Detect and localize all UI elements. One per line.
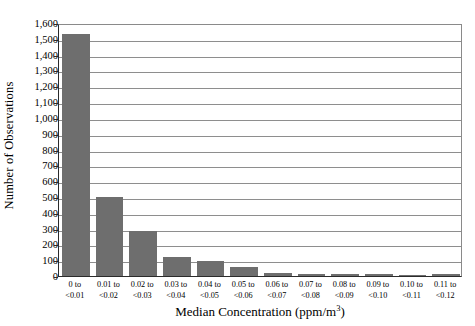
y-axis-tick-label: 1,200 <box>12 82 58 92</box>
x-axis-tick-label-line2: <0.09 <box>327 291 361 302</box>
y-axis-tick-label: 1,400 <box>12 51 58 61</box>
x-axis-tick-label-line1: 0.09 to <box>361 280 395 291</box>
x-axis-tick-label-line2: <0.04 <box>159 291 193 302</box>
y-axis-ticks: 01002003004005006007008009001,0001,1001,… <box>0 24 58 277</box>
x-axis-tick-label: 0.11 to<0.12 <box>428 280 462 301</box>
y-axis-tick-label: 600 <box>12 177 58 187</box>
y-axis-tick-label: 400 <box>12 209 58 219</box>
x-axis-tick-label-line2: <0.01 <box>58 291 92 302</box>
y-axis-tick-label: 1,000 <box>12 114 58 124</box>
x-axis-tick-label-line1: 0.11 to <box>428 280 462 291</box>
x-axis-tick-label-line1: 0.05 to <box>226 280 260 291</box>
bar-series <box>59 25 461 276</box>
y-axis-tick-label: 1,500 <box>12 35 58 45</box>
bar <box>264 273 292 276</box>
x-axis-tick-label-line2: <0.05 <box>193 291 227 302</box>
bar <box>96 197 124 276</box>
x-axis-tick-label-line1: 0.07 to <box>294 280 328 291</box>
x-axis-tick-label: 0.04 to<0.05 <box>193 280 227 301</box>
y-axis-tick-label: 1,300 <box>12 66 58 76</box>
bar <box>62 34 90 276</box>
bar <box>399 275 427 276</box>
x-axis-tick-label-line1: 0.04 to <box>193 280 227 291</box>
x-axis-tick-label-line1: 0 to <box>58 280 92 291</box>
bar <box>230 267 258 276</box>
x-axis-tick-label-line2: <0.02 <box>92 291 126 302</box>
x-axis-tick-label: 0.03 to<0.04 <box>159 280 193 301</box>
x-axis-tick-label-line1: 0.02 to <box>125 280 159 291</box>
x-axis-tick-label-line2: <0.12 <box>428 291 462 302</box>
x-axis-tick-label: 0.01 to<0.02 <box>92 280 126 301</box>
x-axis-tick-label-line1: 0.08 to <box>327 280 361 291</box>
bar <box>197 261 225 276</box>
x-axis-tick-label-line1: 0.01 to <box>92 280 126 291</box>
y-axis-tick-label: 0 <box>12 272 58 282</box>
y-axis-tick-label: 100 <box>12 256 58 266</box>
x-axis-tick-label: 0.07 to<0.08 <box>294 280 328 301</box>
y-axis-tick-label: 1,600 <box>12 19 58 29</box>
y-axis-tick-mark <box>54 277 58 278</box>
x-axis-tick-label-line1: 0.10 to <box>395 280 429 291</box>
bar <box>298 274 326 276</box>
bar <box>129 231 157 276</box>
x-axis-tick-label: 0.09 to<0.10 <box>361 280 395 301</box>
bar <box>365 274 393 276</box>
y-axis-tick-label: 500 <box>12 193 58 203</box>
x-axis-tick-label: 0.02 to<0.03 <box>125 280 159 301</box>
x-axis-tick-label-line2: <0.06 <box>226 291 260 302</box>
x-axis-tick-label-line2: <0.08 <box>294 291 328 302</box>
x-axis-tick-label: 0 to<0.01 <box>58 280 92 301</box>
x-axis-tick-label: 0.06 to<0.07 <box>260 280 294 301</box>
y-axis-tick-label: 300 <box>12 225 58 235</box>
y-axis-tick-label: 200 <box>12 240 58 250</box>
y-axis-tick-label: 1,100 <box>12 98 58 108</box>
y-axis-tick-label: 800 <box>12 146 58 156</box>
x-axis-title: Median Concentration (ppm/m3) <box>58 303 462 320</box>
y-axis-tick-label: 900 <box>12 130 58 140</box>
x-axis-tick-label-line2: <0.03 <box>125 291 159 302</box>
x-axis-tick-label: 0.05 to<0.06 <box>226 280 260 301</box>
plot-area <box>58 24 462 277</box>
x-axis-tick-label-line1: 0.03 to <box>159 280 193 291</box>
x-axis-tick-label-line2: <0.11 <box>395 291 429 302</box>
bar <box>163 257 191 276</box>
x-axis-tick-label-line2: <0.10 <box>361 291 395 302</box>
y-axis-tick-label: 700 <box>12 161 58 171</box>
x-axis-tick-label: 0.10 to<0.11 <box>395 280 429 301</box>
bar-chart-figure: Number of Observations 01002003004005006… <box>0 0 475 326</box>
x-axis-tick-label-line1: 0.06 to <box>260 280 294 291</box>
bar <box>331 274 359 276</box>
bar <box>432 274 460 276</box>
x-axis-tick-label: 0.08 to<0.09 <box>327 280 361 301</box>
x-axis-title-main: Median Concentration (ppm/m <box>175 304 336 319</box>
x-axis-tick-label-line2: <0.07 <box>260 291 294 302</box>
x-axis-title-tail: ) <box>340 304 344 319</box>
